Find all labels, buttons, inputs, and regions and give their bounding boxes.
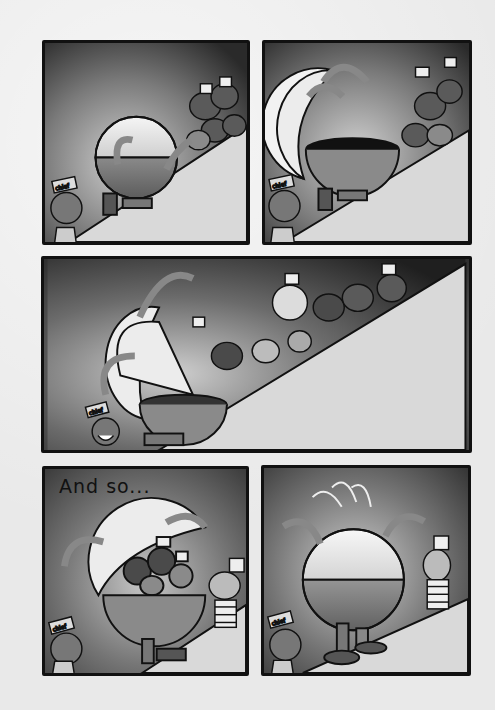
panel-5-art: chief xyxy=(264,468,468,673)
comic-page: chief xyxy=(0,0,495,710)
panel-2-art: chief xyxy=(265,43,469,242)
comic-panel-2: chief xyxy=(262,40,472,245)
panel-3-art: chief xyxy=(44,259,469,450)
panel-caption: And so... xyxy=(59,475,150,497)
comic-panel-4: And so... xyxy=(42,466,249,676)
comic-panel-1: chief xyxy=(42,40,250,245)
panel-1-art: chief xyxy=(45,43,247,242)
panel-4-art: chief xyxy=(45,469,246,673)
comic-panel-3: chief xyxy=(41,256,472,453)
comic-panel-5: chief xyxy=(261,465,471,676)
